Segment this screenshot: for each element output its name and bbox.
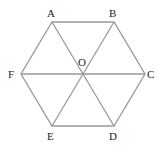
label-a: A — [47, 7, 55, 19]
label-c: C — [147, 68, 154, 80]
label-b: B — [109, 7, 116, 19]
label-d: D — [109, 130, 117, 142]
label-f: F — [8, 68, 14, 80]
label-e: E — [47, 130, 54, 142]
label-o: O — [78, 56, 86, 68]
hexagon-diagram: A B C D E F O — [0, 0, 163, 148]
